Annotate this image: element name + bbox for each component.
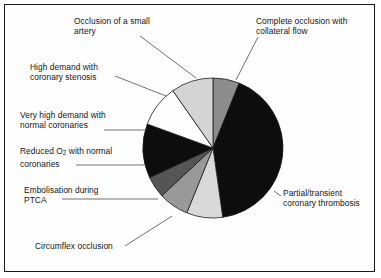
label-occlusion-of-small-artery: Occlusion of a small artery [74,16,174,37]
pie-chart-figure: Occlusion of a small artery Complete occ… [0,0,381,278]
label-partial-transient-coronary-thrombosis: Partial/transient coronary thrombosis [283,188,377,209]
leader-line-occlusion-small-artery [140,36,196,78]
leader-line-complete-occlusion [236,37,258,80]
label-high-demand-coronary-stenosis: High demand with coronary stenosis [30,62,126,83]
pie-slices [143,78,283,218]
leader-line-partial-transient [274,191,281,196]
label-embolisation-during-ptca: Embolisation during PTCA [24,185,128,206]
reduced-o2-text-part3: coronaries [20,159,60,169]
reduced-o2-text-part1: Reduced O [20,146,63,156]
label-circumflex-occlusion: Circumflex occlusion [35,241,145,251]
label-very-high-demand-normal-coronaries: Very high demand with normal coronaries [20,110,136,131]
label-complete-occlusion-collateral-flow: Complete occlusion with collateral flow [256,16,368,37]
label-reduced-o2-normal-coronaries: Reduced O2 with normalcoronaries [20,146,144,169]
pie-chart-canvas [0,0,381,278]
reduced-o2-text-part2: with normal [66,146,112,156]
